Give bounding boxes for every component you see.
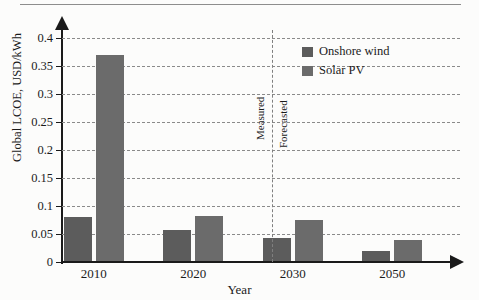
y-axis-title: Global LCOE, USD/kWh bbox=[10, 13, 25, 183]
chart-legend: Onshore wind Solar PV bbox=[302, 44, 389, 78]
x-tick-label: 2010 bbox=[81, 266, 107, 282]
y-tick-mark bbox=[56, 94, 62, 95]
y-tick-mark bbox=[56, 178, 62, 179]
y-tick-label: 0.2 bbox=[37, 143, 53, 158]
y-tick-label: 0.35 bbox=[31, 59, 53, 74]
y-tick-label: 0.4 bbox=[37, 31, 53, 46]
y-tick-label: 0.3 bbox=[37, 87, 53, 102]
bar-solar-pv-2010 bbox=[96, 55, 124, 262]
y-tick-mark bbox=[56, 150, 62, 151]
y-tick-mark bbox=[56, 122, 62, 123]
forecasted-annotation: Forecasted bbox=[277, 100, 289, 148]
y-tick-label: 0.15 bbox=[31, 171, 53, 186]
y-axis-tick-labels: 00.050.10.150.20.250.30.350.4 bbox=[0, 0, 53, 300]
y-tick-mark bbox=[56, 38, 62, 39]
x-tick-label: 2020 bbox=[180, 266, 206, 282]
y-axis-arrow-icon bbox=[55, 16, 69, 30]
y-tick-label: 0.1 bbox=[37, 199, 53, 214]
legend-item-onshore-wind: Onshore wind bbox=[302, 44, 389, 59]
plot-area bbox=[62, 38, 460, 262]
y-tick-mark bbox=[56, 66, 62, 67]
bar-solar-pv-2030 bbox=[295, 220, 323, 262]
x-tick-label: 2030 bbox=[280, 266, 306, 282]
gridline bbox=[62, 38, 460, 39]
legend-label: Onshore wind bbox=[319, 44, 389, 59]
y-tick-mark bbox=[56, 234, 62, 235]
chart-figure: 00.050.10.150.20.250.30.350.4 Global LCO… bbox=[0, 0, 479, 300]
bar-onshore-wind-2010 bbox=[64, 217, 92, 262]
legend-label: Solar PV bbox=[319, 63, 365, 78]
bar-onshore-wind-2030 bbox=[263, 238, 291, 262]
y-tick-mark bbox=[56, 262, 62, 263]
page-rule bbox=[20, 4, 461, 5]
x-axis-title: Year bbox=[0, 282, 479, 298]
bar-solar-pv-2050 bbox=[394, 240, 422, 262]
x-tick-label: 2050 bbox=[379, 266, 405, 282]
legend-swatch-icon bbox=[302, 47, 313, 57]
y-tick-label: 0 bbox=[47, 255, 53, 270]
measured-forecasted-divider bbox=[272, 30, 273, 262]
legend-item-solar-pv: Solar PV bbox=[302, 63, 389, 78]
bar-solar-pv-2020 bbox=[195, 216, 223, 262]
measured-annotation: Measured bbox=[254, 97, 266, 140]
y-tick-mark bbox=[56, 206, 62, 207]
x-axis-arrow-icon bbox=[450, 255, 464, 269]
y-tick-label: 0.25 bbox=[31, 115, 53, 130]
y-tick-label: 0.05 bbox=[31, 227, 53, 242]
legend-swatch-icon bbox=[302, 66, 313, 76]
x-axis-line bbox=[62, 261, 452, 263]
bar-onshore-wind-2020 bbox=[163, 230, 191, 262]
